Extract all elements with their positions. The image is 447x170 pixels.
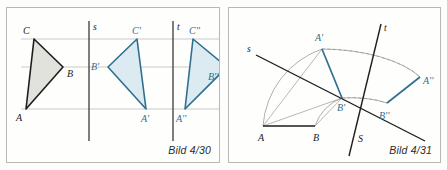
vertex-label-a-prime: A' xyxy=(140,113,150,124)
vertex-label-a: A xyxy=(15,112,23,123)
triangle-a1b1c1 xyxy=(108,39,146,109)
triangle-abc xyxy=(26,39,63,109)
vertex-label-b: B xyxy=(67,68,73,79)
caption-bild-4-31: Bild 4/31 xyxy=(389,144,432,156)
vertex-label-c-double-prime: C'' xyxy=(189,25,201,36)
right-panel-drawing: s t A B A' B' A'' B'' S xyxy=(229,8,441,163)
figure-root: s t C B A C' B' A' C'' B'' A'' Bild 4/30 xyxy=(0,0,447,170)
ray-a-to-a-prime xyxy=(263,49,322,126)
left-panel-drawing: s t C B A C' B' A' C'' B'' A'' xyxy=(7,8,220,163)
panel-bild-4-30: s t C B A C' B' A' C'' B'' A'' Bild 4/30 xyxy=(6,7,220,163)
point-label-a-prime: A' xyxy=(314,32,324,43)
point-label-b: B xyxy=(313,132,319,143)
axis-label-t: t xyxy=(177,22,180,32)
ray-a-to-b-prime xyxy=(263,98,342,126)
segment-a-double-prime-b-double-prime xyxy=(387,77,420,103)
point-label-s-intersection: S xyxy=(358,133,363,144)
vertex-label-b-double-prime: B'' xyxy=(208,71,219,82)
vertex-label-c: C xyxy=(23,25,30,36)
panel-bild-4-31: s t A B A' B' A'' B'' S Bild 4/31 xyxy=(228,7,441,163)
vertex-label-c-prime: C' xyxy=(132,25,142,36)
point-label-a: A xyxy=(257,132,265,143)
axis-label-s-right: s xyxy=(247,44,251,54)
point-label-a-double-prime: A'' xyxy=(422,75,434,86)
vertex-label-a-double-prime: A'' xyxy=(175,113,187,124)
axis-label-s: s xyxy=(93,22,97,32)
vertex-label-b-prime: B' xyxy=(91,61,100,72)
rotation-axis-t xyxy=(349,24,381,156)
rotation-axis-s xyxy=(256,55,425,141)
point-label-b-prime: B' xyxy=(337,102,346,113)
caption-bild-4-30: Bild 4/30 xyxy=(168,144,211,156)
point-label-b-double-prime: B'' xyxy=(379,110,390,121)
axis-label-t-right: t xyxy=(384,23,387,33)
